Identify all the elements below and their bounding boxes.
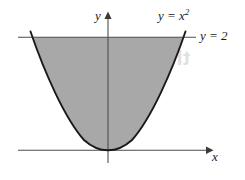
figure-canvas [0,0,245,180]
curve-equation-exponent: 2 [185,7,190,17]
curve-equation-text: y = x [158,8,185,23]
y-axis-arrow-icon [104,12,111,20]
x-axis-label: x [212,150,218,163]
line-equation-label: y = 2 [200,29,228,42]
curve-equation-label: y = x2 [158,8,189,22]
math-figure: the Regions an y = x2 y = 2 y x [0,0,245,180]
y-axis-label: y [95,9,101,22]
